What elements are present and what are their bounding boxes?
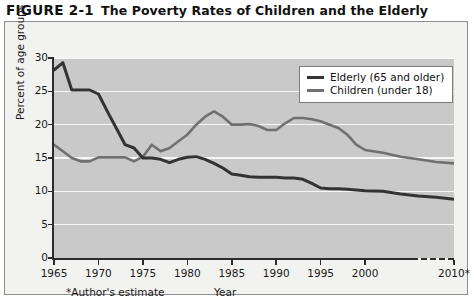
x-axis-label: Year — [214, 286, 236, 298]
y-tick-mark-30 — [48, 57, 53, 59]
x-tick-label-1975: 1975 — [123, 268, 163, 279]
y-axis-label: Percent of age groups — [14, 5, 26, 120]
x-tick-mark-1980 — [187, 260, 189, 265]
x-tick-mark-2000 — [364, 260, 366, 265]
x-tick-label-1965: 1965 — [34, 268, 74, 279]
y-tick-label-20: 20 — [24, 119, 48, 129]
y-tick-label-10: 10 — [24, 185, 48, 195]
y-tick-label-0: 0 — [24, 252, 48, 262]
x-tick-mark-1995 — [320, 260, 322, 265]
y-tick-mark-20 — [48, 124, 53, 126]
y-tick-label-30: 30 — [24, 52, 48, 62]
x-tick-mark-1975 — [142, 260, 144, 265]
y-tick-mark-5 — [48, 224, 53, 226]
x-tick-mark-1965 — [53, 260, 55, 265]
plot-wrapper: 302520151050 196519701975198019851990199… — [54, 58, 454, 258]
footnote-authors-estimate: *Author's estimate — [66, 286, 165, 298]
figure-name: The Poverty Rates of Children and the El… — [101, 3, 428, 18]
legend-label-children: Children (under 18) — [330, 84, 433, 97]
y-tick-mark-15 — [48, 157, 53, 159]
x-tick-label-1980: 1980 — [167, 268, 207, 279]
figure-panel: 302520151050 196519701975198019851990199… — [4, 21, 468, 295]
x-tick-mark-1970 — [98, 260, 100, 265]
x-tick-label-1995: 1995 — [301, 268, 341, 279]
y-tick-mark-10 — [48, 191, 53, 193]
legend-item-elderly: Elderly (65 and older) — [307, 71, 444, 84]
legend: Elderly (65 and older) Children (under 1… — [299, 66, 453, 103]
x-tick-mark-2010 — [453, 260, 455, 265]
x-tick-label-2010: 2010* — [434, 268, 474, 279]
x-tick-mark-1985 — [231, 260, 233, 265]
x-tick-mark-1990 — [275, 260, 277, 265]
x-tick-label-1985: 1985 — [212, 268, 252, 279]
x-tick-label-1970: 1970 — [78, 268, 118, 279]
y-tick-label-15: 15 — [24, 152, 48, 162]
line-children — [54, 111, 454, 163]
legend-label-elderly: Elderly (65 and older) — [330, 71, 444, 84]
legend-item-children: Children (under 18) — [307, 84, 444, 97]
y-tick-label-5: 5 — [24, 219, 48, 229]
figure-title: FIGURE 2-1 The Poverty Rates of Children… — [6, 2, 428, 18]
y-tick-mark-25 — [48, 91, 53, 93]
x-tick-label-1990: 1990 — [256, 268, 296, 279]
y-tick-mark-0 — [48, 257, 53, 259]
legend-swatch-elderly — [307, 76, 324, 79]
legend-swatch-children — [307, 89, 324, 92]
x-axis-projection-dashed — [412, 258, 454, 260]
y-tick-label-25: 25 — [24, 85, 48, 95]
figure-root: FIGURE 2-1 The Poverty Rates of Children… — [0, 0, 474, 300]
x-tick-label-2000: 2000 — [345, 268, 385, 279]
